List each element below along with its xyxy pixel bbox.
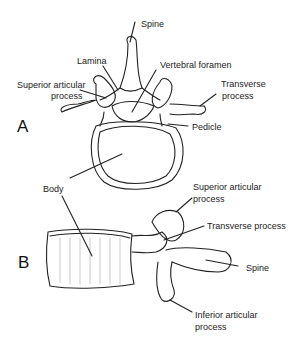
figure-a-letter: A — [17, 117, 28, 137]
label-a-body: Body — [43, 184, 64, 195]
label-b-transverse-process: Transverse process — [207, 221, 286, 232]
label-b-inferior-articular: Inferior articular — [195, 310, 258, 321]
label-a-superior-articular: Superior articular — [17, 80, 86, 91]
label-a-vertebral-foramen: Vertebral foramen — [160, 60, 232, 71]
label-b-spine: Spine — [246, 263, 269, 274]
label-a-pedicle: Pedicle — [192, 122, 222, 133]
figure-b-letter: B — [18, 253, 29, 273]
label-b-superior-articular-process: process — [193, 194, 225, 205]
label-a-spine: Spine — [141, 19, 164, 30]
label-b-superior-articular: Superior articular — [193, 182, 262, 193]
label-a-transverse-process: process — [222, 91, 254, 102]
label-a-superior-articular-process: process — [51, 91, 83, 102]
label-b-inferior-articular-process: process — [195, 322, 227, 333]
vertebra-illustration — [0, 0, 291, 345]
label-a-lamina: Lamina — [77, 56, 107, 67]
label-a-transverse: Transverse — [221, 79, 266, 90]
